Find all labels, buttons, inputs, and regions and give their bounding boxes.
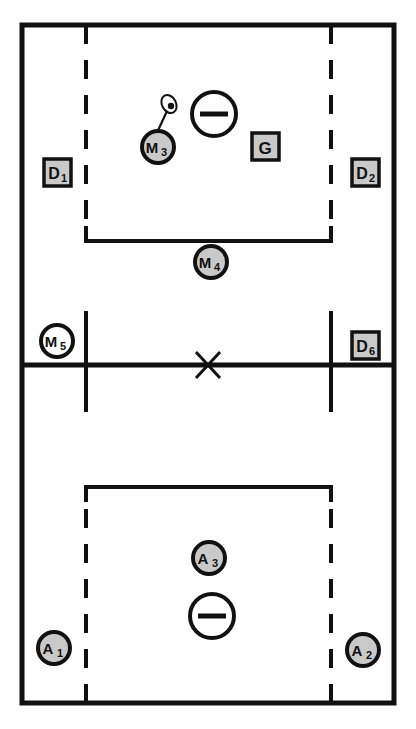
marker-M5[interactable]: M 5 [41, 325, 73, 357]
bottom-goal-crease-icon [190, 594, 234, 638]
marker-A2-letter: A [352, 642, 363, 659]
lacrosse-field-diagram: M 3 M 4 M 5 A 3 A 1 A 2 [0, 0, 416, 729]
marker-M4-number: 4 [214, 261, 221, 273]
marker-A3[interactable]: A 3 [193, 542, 225, 574]
marker-M5-letter: M [45, 333, 58, 350]
marker-M4[interactable]: M 4 [195, 246, 227, 278]
marker-M3[interactable]: M 3 [142, 131, 174, 163]
marker-G-letter: G [258, 139, 271, 158]
marker-M3-number: 3 [161, 146, 167, 158]
marker-D6-letter: D [356, 338, 368, 355]
marker-A2[interactable]: A 2 [347, 634, 379, 666]
marker-A3-number: 3 [212, 557, 218, 569]
marker-M3-letter: M [146, 139, 159, 156]
marker-D2[interactable]: D 2 [352, 159, 379, 186]
marker-D2-letter: D [356, 165, 368, 182]
marker-A1-letter: A [43, 640, 54, 657]
marker-M4-letter: M [199, 254, 212, 271]
marker-D1-number: 1 [61, 172, 67, 184]
marker-A1-number: 1 [57, 647, 63, 659]
marker-M5-number: 5 [60, 340, 66, 352]
marker-D6[interactable]: D 6 [352, 332, 379, 359]
marker-D6-number: 6 [369, 345, 375, 357]
marker-D2-number: 2 [369, 172, 375, 184]
marker-D1[interactable]: D 1 [44, 159, 71, 186]
marker-A3-letter: A [198, 550, 209, 567]
marker-D1-letter: D [48, 165, 60, 182]
top-goal-crease-icon [192, 92, 236, 136]
field-svg-canvas: M 3 M 4 M 5 A 3 A 1 A 2 [0, 0, 416, 729]
marker-A1[interactable]: A 1 [38, 632, 70, 664]
marker-A2-number: 2 [366, 649, 372, 661]
marker-G[interactable]: G [252, 133, 279, 160]
